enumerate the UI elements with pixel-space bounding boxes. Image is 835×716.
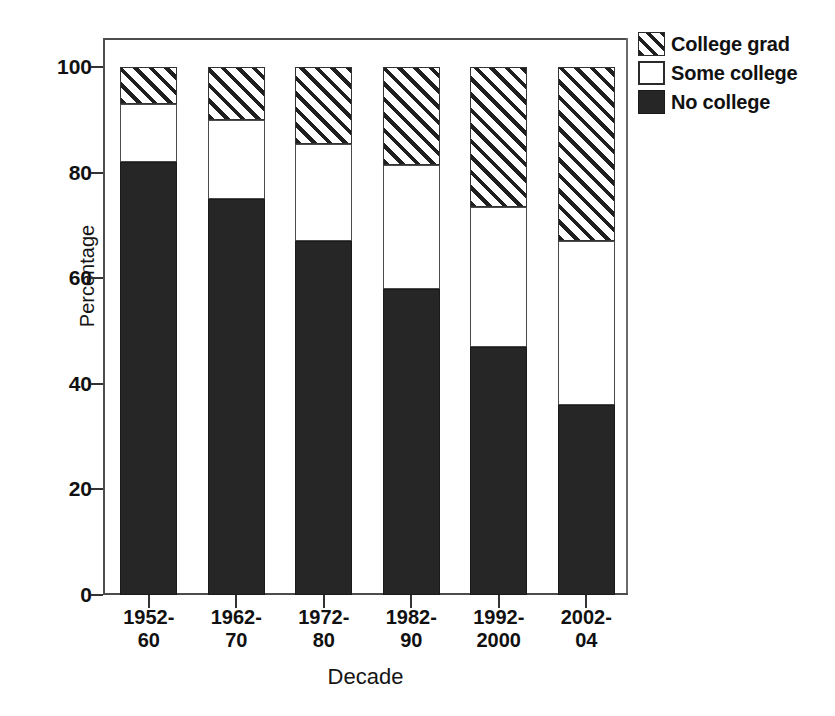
y-axis-tick-mark	[91, 172, 103, 174]
bar-segment-no-college	[470, 347, 527, 595]
bar-segment-some-college	[208, 120, 265, 199]
bar-group	[470, 67, 527, 595]
bar-segment-some-college	[295, 144, 352, 242]
legend-item: Some college	[638, 59, 833, 87]
y-axis-tick-mark	[91, 594, 103, 596]
bar-segment-no-college	[208, 199, 265, 595]
legend-item-label: Some college	[671, 62, 798, 85]
stacked-bar-chart: Percentage 020406080100 1952-601962-7019…	[0, 0, 835, 716]
bar-segment-some-college	[383, 165, 440, 289]
legend-item-label: College grad	[671, 33, 790, 56]
x-axis-tick-label: 2002-04	[531, 606, 641, 652]
y-axis-tick-label: 60	[28, 267, 92, 288]
bar-group	[120, 67, 177, 595]
y-axis-tick-mark	[91, 488, 103, 490]
y-axis-tick-mark	[91, 383, 103, 385]
hatch-swatch	[638, 32, 665, 56]
x-tick-label-line1: 2002-	[561, 606, 612, 628]
bars-layer	[103, 38, 628, 595]
y-axis-tick-label: 0	[28, 584, 92, 605]
bar-segment-college-grad	[208, 67, 265, 120]
bar-segment-no-college	[558, 405, 615, 595]
white-swatch	[638, 61, 665, 85]
bar-segment-some-college	[558, 241, 615, 405]
bar-segment-no-college	[383, 289, 440, 595]
legend-item: No college	[638, 88, 833, 116]
bar-segment-college-grad	[558, 67, 615, 241]
bar-segment-no-college	[120, 162, 177, 595]
bar-segment-college-grad	[383, 67, 440, 165]
x-tick-label-line1: 1992-	[473, 606, 524, 628]
bar-group	[208, 67, 265, 595]
bar-segment-college-grad	[470, 67, 527, 207]
y-axis-tick-mark	[91, 66, 103, 68]
y-axis-tick-label: 20	[28, 478, 92, 499]
x-tick-label-line1: 1962-	[211, 606, 262, 628]
y-axis-tick-labels: 020406080100	[28, 0, 92, 716]
x-tick-label-line1: 1972-	[298, 606, 349, 628]
y-axis-tick-mark	[91, 277, 103, 279]
y-axis-tick-label: 40	[28, 373, 92, 394]
legend-item: College grad	[638, 30, 833, 58]
x-tick-label-line1: 1952-	[123, 606, 174, 628]
plot-area	[103, 38, 628, 595]
bar-segment-some-college	[470, 207, 527, 347]
chart-legend: College gradSome collegeNo college	[638, 30, 833, 117]
bar-segment-no-college	[295, 241, 352, 595]
bar-group	[383, 67, 440, 595]
bar-segment-college-grad	[120, 67, 177, 104]
x-axis-title: Decade	[103, 664, 628, 690]
black-swatch	[638, 90, 665, 114]
bar-segment-college-grad	[295, 67, 352, 144]
y-axis-tick-label: 100	[28, 56, 92, 77]
x-tick-label-line2: 04	[531, 629, 641, 652]
y-axis-tick-label: 80	[28, 162, 92, 183]
bar-group	[558, 67, 615, 595]
x-tick-label-line1: 1982-	[386, 606, 437, 628]
bar-segment-some-college	[120, 104, 177, 162]
bar-group	[295, 67, 352, 595]
legend-item-label: No college	[671, 91, 770, 114]
